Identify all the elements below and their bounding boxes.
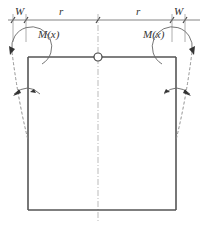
moment-arc-left xyxy=(12,27,52,64)
deflection-right xyxy=(176,52,192,140)
label-moment-left: M(x) xyxy=(37,28,60,41)
structure-diagram: W r r W M(x) M(x) xyxy=(0,0,206,225)
dimension-line xyxy=(8,17,200,23)
label-w-right: W xyxy=(174,5,184,17)
label-r-left: r xyxy=(59,5,64,17)
label-r-right: r xyxy=(136,5,141,17)
frame xyxy=(28,57,176,210)
hinge-icon xyxy=(94,53,102,61)
deflection-left xyxy=(12,52,28,140)
label-w-left: W xyxy=(15,5,25,17)
